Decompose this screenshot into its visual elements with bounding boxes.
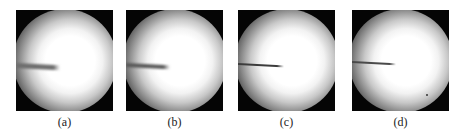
panel-c: [238, 10, 335, 111]
glow-spot: [126, 10, 223, 111]
panel-label-c: (c): [238, 115, 335, 130]
panel-a: [16, 10, 113, 111]
panel-d: [352, 10, 449, 111]
panel-label-b: (b): [126, 115, 223, 130]
panel-label-a: (a): [16, 115, 113, 130]
glow-spot: [352, 10, 449, 111]
glow-spot: [16, 10, 113, 111]
glow-spot: [238, 10, 335, 111]
panel-label-d: (d): [352, 115, 449, 130]
panel-b: [126, 10, 223, 111]
dust-speck: [426, 94, 428, 96]
